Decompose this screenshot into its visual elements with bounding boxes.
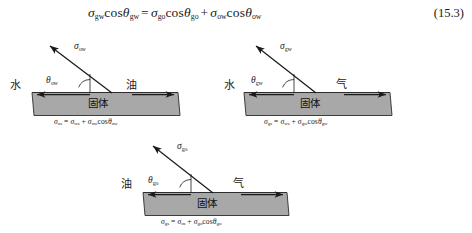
equation-rhs2-theta: θow [245, 5, 261, 20]
equation-rhs1-cos: cos [165, 5, 184, 20]
caption-gas-water: σgs=σws+σgwcosθgw [264, 118, 327, 127]
equation-rhs1-theta: θgo [184, 5, 198, 20]
equation-rhs2-sigma: σow [210, 5, 226, 20]
tension-vector-gas-water [256, 46, 316, 93]
diagram-oil-water: 水 油 固体 σow θow σos=σws+σowcosθow [2, 36, 224, 136]
equation-rhs1-sigma: σgo [151, 5, 166, 20]
equation-rhs2-cos: cos [227, 5, 246, 20]
main-equation: σgwcosθgw=σgocosθgo+σowcosθow [88, 5, 261, 21]
solid-label-gas-oil: 固体 [197, 198, 217, 209]
phase-label-right-gas-water: 气 [336, 79, 347, 90]
equation-lhs-theta: θgw [123, 5, 139, 20]
tension-label-gas-oil: σgo [177, 142, 187, 152]
angle-arc-oil-water [79, 80, 90, 88]
tension-label-gas-water: σgw [280, 42, 292, 52]
angle-label-oil-water: θow [46, 76, 58, 86]
phase-label-left-gas-oil: 油 [121, 179, 132, 190]
solid-label-gas-water: 固体 [300, 98, 320, 109]
tension-vector-oil-water [50, 46, 112, 93]
tension-vector-gas-oil [153, 146, 213, 193]
diagram-gas-oil: 油 气 固体 σgo θgo σgs=σos+σgocosθgo [115, 138, 347, 233]
equation-plus-sign: + [198, 5, 210, 20]
angle-arc-gas-water [283, 80, 294, 88]
diagram-gas-water: 水 气 固体 σgw θgw σgs=σws+σgwcosθgw [232, 36, 464, 136]
phase-label-right-oil-water: 油 [126, 80, 137, 91]
phase-label-left-oil-water: 水 [10, 80, 21, 91]
equation-lhs-cos: cos [104, 5, 123, 20]
equation-row: σgwcosθgw=σgocosθgo+σowcosθow (15.3) [0, 0, 472, 34]
angle-label-gas-water: θgw [251, 76, 263, 86]
phase-label-right-gas-oil: 气 [233, 178, 244, 189]
equation-number: (15.3) [434, 6, 464, 21]
phase-label-left-gas-water: 水 [224, 80, 235, 91]
solid-label-oil-water: 固体 [88, 98, 108, 109]
angle-arc-gas-oil [180, 180, 191, 188]
equation-lhs-theta-subscript: gw [130, 12, 139, 21]
equation-rhs2-sigma-subscript: ow [217, 12, 226, 21]
equation-rhs2-theta-subscript: ow [252, 12, 261, 21]
caption-gas-oil: σgs=σos+σgocosθgo [161, 218, 221, 227]
tension-label-oil-water: σow [74, 42, 86, 52]
caption-oil-water: σos=σws+σowcosθow [54, 118, 117, 127]
equation-lhs-sigma-subscript: gw [95, 12, 104, 21]
equation-lhs-sigma: σgw [88, 5, 104, 20]
equation-equals-sign: = [139, 5, 151, 20]
angle-label-gas-oil: θgo [148, 176, 158, 186]
